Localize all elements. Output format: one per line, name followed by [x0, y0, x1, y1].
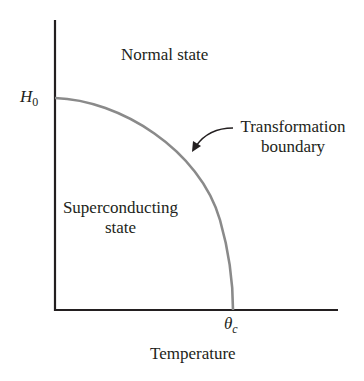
h0-label: H0	[20, 87, 38, 110]
annotation-arrow-line	[196, 128, 233, 146]
temperature-axis-label: Temperature	[150, 344, 236, 364]
superconducting-state-label: Superconducting state	[58, 198, 183, 237]
arrow-head-icon	[192, 141, 201, 152]
theta-c-label: θc	[224, 314, 238, 337]
normal-state-label: Normal state	[121, 45, 208, 65]
transformation-boundary-label: Transformation boundary	[238, 117, 348, 156]
